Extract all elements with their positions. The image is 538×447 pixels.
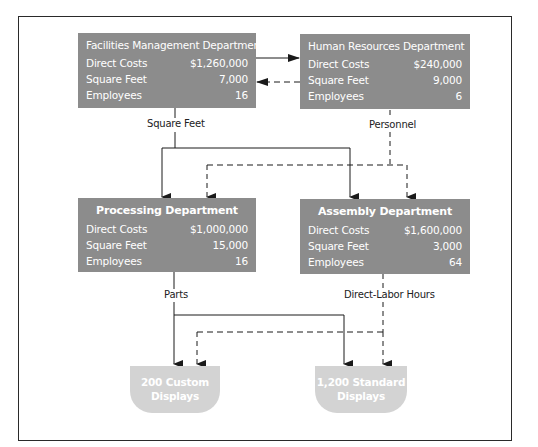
row-label: Direct Costs bbox=[308, 222, 369, 238]
employees-row: Employees 64 bbox=[308, 254, 462, 270]
direct-labor-hours-connector-label: Direct-Labor Hours bbox=[342, 289, 437, 300]
direct-costs-row: Direct Costs $1,000,000 bbox=[86, 221, 248, 237]
output-line-2: Displays bbox=[315, 389, 407, 403]
output-line-1: 200 Custom bbox=[130, 375, 220, 389]
row-value: $1,000,000 bbox=[190, 221, 248, 237]
row-label: Direct Costs bbox=[86, 55, 147, 71]
department-title: Human Resources Department bbox=[308, 40, 462, 52]
row-value: 16 bbox=[235, 87, 248, 103]
standard-displays-output: 1,200 Standard Displays bbox=[315, 366, 407, 413]
row-value: 6 bbox=[456, 88, 462, 104]
employees-row: Employees 16 bbox=[86, 253, 248, 269]
row-value: $240,000 bbox=[413, 56, 462, 72]
row-value: 16 bbox=[235, 253, 248, 269]
custom-displays-output: 200 Custom Displays bbox=[130, 366, 220, 413]
row-value: 64 bbox=[449, 254, 462, 270]
row-label: Employees bbox=[86, 253, 142, 269]
parts-connector-label: Parts bbox=[162, 289, 190, 300]
direct-costs-row: Direct Costs $1,600,000 bbox=[308, 222, 462, 238]
facilities-management-department: Facilities Management Department Direct … bbox=[78, 33, 256, 108]
human-resources-department: Human Resources Department Direct Costs … bbox=[300, 34, 470, 109]
assembly-department: Assembly Department Direct Costs $1,600,… bbox=[300, 199, 470, 274]
processing-department: Processing Department Direct Costs $1,00… bbox=[78, 198, 256, 272]
row-value: $1,260,000 bbox=[190, 55, 248, 71]
square-feet-row: Square Feet 3,000 bbox=[308, 238, 462, 254]
department-title: Facilities Management Department bbox=[86, 39, 248, 51]
direct-costs-row: Direct Costs $1,260,000 bbox=[86, 55, 248, 71]
row-value: 3,000 bbox=[433, 238, 462, 254]
row-value: $1,600,000 bbox=[404, 222, 462, 238]
square-feet-row: Square Feet 9,000 bbox=[308, 72, 462, 88]
row-label: Direct Costs bbox=[308, 56, 369, 72]
row-label: Square Feet bbox=[308, 238, 369, 254]
row-label: Square Feet bbox=[86, 237, 147, 253]
department-title: Processing Department bbox=[86, 204, 248, 217]
row-label: Employees bbox=[308, 88, 364, 104]
row-value: 9,000 bbox=[433, 72, 462, 88]
square-feet-row: Square Feet 7,000 bbox=[86, 71, 248, 87]
square-feet-connector-label: Square Feet bbox=[145, 118, 207, 129]
square-feet-row: Square Feet 15,000 bbox=[86, 237, 248, 253]
output-line-1: 1,200 Standard bbox=[315, 375, 407, 389]
department-title: Assembly Department bbox=[308, 205, 462, 218]
employees-row: Employees 6 bbox=[308, 88, 462, 104]
row-label: Square Feet bbox=[86, 71, 147, 87]
direct-costs-row: Direct Costs $240,000 bbox=[308, 56, 462, 72]
row-label: Employees bbox=[308, 254, 364, 270]
row-label: Employees bbox=[86, 87, 142, 103]
employees-row: Employees 16 bbox=[86, 87, 248, 103]
row-value: 7,000 bbox=[219, 71, 248, 87]
row-value: 15,000 bbox=[212, 237, 248, 253]
output-line-2: Displays bbox=[130, 389, 220, 403]
row-label: Direct Costs bbox=[86, 221, 147, 237]
personnel-connector-label: Personnel bbox=[367, 119, 418, 130]
row-label: Square Feet bbox=[308, 72, 369, 88]
